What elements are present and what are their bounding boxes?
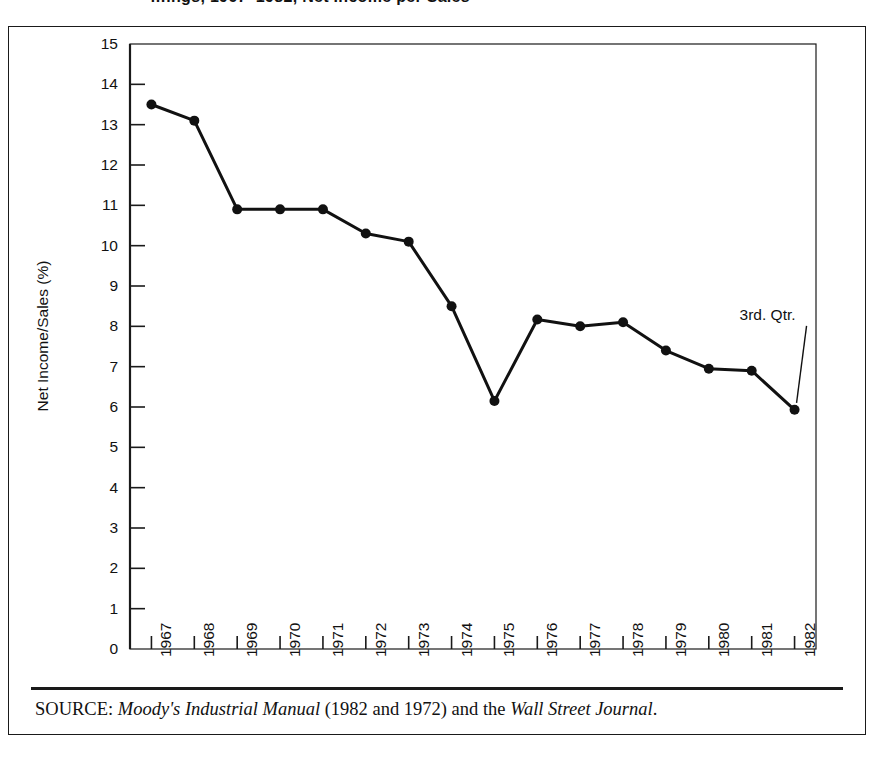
source-note: SOURCE: Moody's Industrial Manual (1982 … xyxy=(35,699,845,720)
source-suffix: . xyxy=(653,699,658,719)
y-axis-tick-label: 3 xyxy=(88,520,118,536)
x-axis-tick-label: 1979 xyxy=(673,623,689,657)
x-axis-tick-label: 1982 xyxy=(802,623,818,657)
y-axis-tick-label: 8 xyxy=(88,318,118,334)
data-point-marker xyxy=(532,314,542,324)
data-point-marker xyxy=(318,204,328,214)
x-axis-tick-label: 1969 xyxy=(244,623,260,657)
cropped-title-strip: …ings, 1967–1982, Net Income per Sales xyxy=(0,0,874,18)
data-point-marker xyxy=(618,317,628,327)
source-publication-1: Moody's Industrial Manual xyxy=(118,699,320,719)
x-axis-tick-label: 1972 xyxy=(373,623,389,657)
data-point-marker xyxy=(146,100,156,110)
annotation-label: 3rd. Qtr. xyxy=(740,306,796,324)
data-series-line xyxy=(151,105,794,410)
x-axis-tick-label: 1975 xyxy=(501,623,517,657)
y-axis-tick-label: 7 xyxy=(88,359,118,375)
x-axis-tick-label: 1977 xyxy=(587,623,603,657)
data-point-marker xyxy=(275,204,285,214)
data-point-marker xyxy=(447,301,457,311)
plot-frame xyxy=(130,44,816,649)
y-axis-tick-label: 13 xyxy=(88,117,118,133)
y-axis-tick-label: 11 xyxy=(88,197,118,213)
x-axis-tick-label: 1978 xyxy=(630,623,646,657)
data-point-marker xyxy=(575,321,585,331)
data-point-marker xyxy=(704,364,714,374)
y-axis-tick-label: 5 xyxy=(88,439,118,455)
y-axis-tick-label: 9 xyxy=(88,278,118,294)
figure-frame: Net Income/Sales (%) 0123456789101112131… xyxy=(8,26,866,735)
data-point-marker xyxy=(661,346,671,356)
source-publication-2: Wall Street Journal xyxy=(510,699,653,719)
x-axis-tick-label: 1967 xyxy=(158,623,174,657)
x-axis-tick-label: 1976 xyxy=(544,623,560,657)
y-axis-tick-label: 10 xyxy=(88,238,118,254)
x-axis-tick-label: 1980 xyxy=(716,623,732,657)
x-axis-tick-label: 1968 xyxy=(201,623,217,657)
data-point-marker xyxy=(489,396,499,406)
x-axis-tick-label: 1970 xyxy=(287,623,303,657)
x-axis-tick-label: 1981 xyxy=(759,623,775,657)
annotation-leader-line xyxy=(797,326,807,403)
y-axis-tick-label: 2 xyxy=(88,560,118,576)
line-chart xyxy=(9,27,867,667)
y-axis-tick-label: 14 xyxy=(88,76,118,92)
x-axis-tick-label: 1971 xyxy=(330,623,346,657)
y-axis-tick-label: 12 xyxy=(88,157,118,173)
data-point-marker xyxy=(747,366,757,376)
chart-region: Net Income/Sales (%) 0123456789101112131… xyxy=(9,27,867,667)
y-axis-tick-label: 4 xyxy=(88,480,118,496)
data-point-marker xyxy=(361,229,371,239)
data-point-marker xyxy=(189,116,199,126)
data-point-marker xyxy=(404,237,414,247)
data-point-marker xyxy=(790,405,800,415)
y-axis-title: Net Income/Sales (%) xyxy=(34,236,52,436)
figure-title: …ings, 1967–1982, Net Income per Sales xyxy=(150,0,470,6)
source-middle: (1982 and 1972) and the xyxy=(325,699,506,719)
data-point-marker xyxy=(232,204,242,214)
y-axis-tick-label: 0 xyxy=(88,641,118,657)
x-axis-tick-label: 1973 xyxy=(416,623,432,657)
x-axis-tick-label: 1974 xyxy=(459,623,475,657)
y-axis-tick-label: 6 xyxy=(88,399,118,415)
source-divider xyxy=(31,687,843,690)
y-axis-tick-label: 1 xyxy=(88,601,118,617)
source-prefix: SOURCE: xyxy=(35,699,113,719)
y-axis-tick-label: 15 xyxy=(88,36,118,52)
